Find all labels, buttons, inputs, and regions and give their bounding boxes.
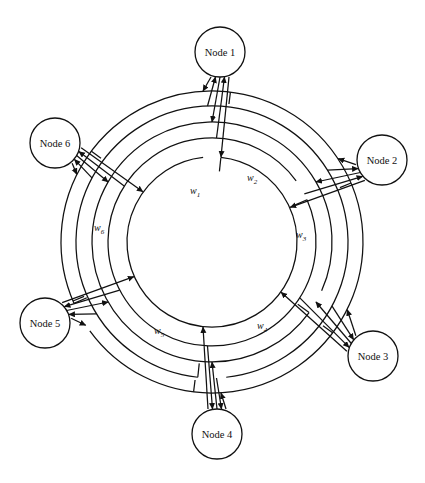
spoke-node-6-in-1 xyxy=(72,163,77,174)
node-6-label: Node 6 xyxy=(40,138,71,149)
ring-arc-5 xyxy=(61,91,363,393)
weight-label-w5: w5 xyxy=(154,325,165,339)
diagram-canvas: Node 1Node 2Node 3Node 4Node 5Node 6 w1w… xyxy=(0,0,425,483)
ring-arc-3 xyxy=(92,122,332,362)
spoke-node-5-out-2 xyxy=(69,314,97,315)
node-1[interactable]: Node 1 xyxy=(195,27,245,77)
node-2-label: Node 2 xyxy=(367,155,398,166)
weight-label-w4: w4 xyxy=(257,320,268,334)
weight-subscript-w2: 2 xyxy=(254,178,258,186)
weight-label-w6: w6 xyxy=(94,222,105,236)
spoke-node-4-in-5 xyxy=(203,327,208,409)
node-3-label: Node 3 xyxy=(358,351,389,362)
spoke-node-1-in-5 xyxy=(221,77,229,157)
node-4[interactable]: Node 4 xyxy=(192,409,242,459)
weight-subscript-w4: 4 xyxy=(264,326,268,334)
spoke-node-2-out-2 xyxy=(328,169,359,171)
spoke-node-4-out-4 xyxy=(208,346,213,409)
node-4-label: Node 4 xyxy=(202,429,233,440)
ring-arc-1 xyxy=(127,157,297,327)
spoke-elbow-node-1 xyxy=(229,92,230,104)
node-5[interactable]: Node 5 xyxy=(20,298,70,348)
spoke-node-1-in-1 xyxy=(203,77,211,91)
weight-label-w2: w2 xyxy=(247,172,258,186)
weight-labels-group: w1w2w3w4w5w6 xyxy=(94,172,307,339)
spoke-node-3-out-2 xyxy=(332,306,354,340)
spoke-node-2-in-5 xyxy=(290,180,365,207)
spoke-node-5-in-3 xyxy=(67,302,108,311)
spoke-elbow-node-6 xyxy=(91,151,101,158)
weight-subscript-w1: 1 xyxy=(197,191,201,199)
spoke-node-5-in-1 xyxy=(71,318,86,325)
node-6[interactable]: Node 6 xyxy=(30,118,80,168)
weight-label-w1: w1 xyxy=(190,185,200,199)
weight-subscript-w3: 3 xyxy=(302,235,307,243)
weight-subscript-w6: 6 xyxy=(101,228,105,236)
spoke-node-6-in-5 xyxy=(81,148,143,192)
ring-arcs-group xyxy=(61,91,363,393)
spoke-node-3-in-5 xyxy=(281,292,347,351)
ring-network-diagram: Node 1Node 2Node 3Node 4Node 5Node 6 w1w… xyxy=(0,0,425,483)
spoke-elbow-node-4 xyxy=(194,380,195,392)
ring-arc-4 xyxy=(76,106,348,377)
ring-break-stub-4 xyxy=(198,363,199,377)
spoke-node-4-in-3 xyxy=(212,362,217,409)
nodes-group: Node 1Node 2Node 3Node 4Node 5Node 6 xyxy=(20,27,407,459)
spoke-node-4-in-1 xyxy=(221,393,226,409)
weight-subscript-w5: 5 xyxy=(161,331,165,339)
spoke-node-2-in-3 xyxy=(316,173,360,183)
ring-arc-2 xyxy=(108,138,316,346)
node-3[interactable]: Node 3 xyxy=(348,331,398,381)
node-1-label: Node 1 xyxy=(205,47,236,58)
node-2[interactable]: Node 2 xyxy=(357,135,407,185)
node-5-label: Node 5 xyxy=(30,318,61,329)
ring-break-stub-1 xyxy=(219,157,220,171)
